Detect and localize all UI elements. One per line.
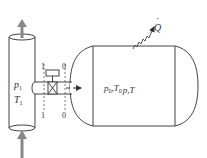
supply-pressure-label: p1 — [13, 79, 22, 91]
valve-icon — [46, 70, 59, 94]
inflow-arrow-icon — [17, 130, 27, 158]
supply-pipe — [9, 34, 35, 131]
tank-left-dome — [70, 46, 93, 126]
section-0-bottom-label: 0 — [62, 111, 66, 120]
valve-actuator — [46, 70, 59, 76]
pipe-bottom-opening — [9, 125, 35, 128]
section-1-top-label: 1 — [41, 62, 45, 71]
tank-right-dome — [175, 46, 198, 126]
supply-temperature-label: T1 — [14, 94, 23, 106]
heat-transfer-zigzag-icon — [133, 33, 151, 49]
tank-state-text: p0,T0p,T — [103, 83, 136, 95]
heat-rate-dot: · — [156, 13, 159, 24]
section-0-top-label: 0 — [62, 62, 66, 71]
tank-charging-diagram: p1 T1 1 1 0 0 p0,T0p,T Q · — [0, 0, 207, 158]
section-1-bottom-label: 1 — [41, 111, 45, 120]
